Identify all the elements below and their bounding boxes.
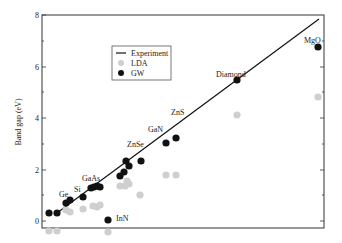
y-tick-6: 6 bbox=[35, 63, 39, 72]
label-znse: ZnSe bbox=[127, 140, 144, 149]
label-ge: Ge bbox=[59, 190, 69, 199]
label-zns: ZnS bbox=[171, 108, 184, 117]
legend-lda: LDA bbox=[131, 59, 148, 68]
y-tick-4: 4 bbox=[35, 114, 39, 123]
material-labels: Ge Si GaAs InN ZnSe GaN ZnS Diamond MgO bbox=[59, 36, 321, 223]
y-tick-2: 2 bbox=[35, 166, 39, 175]
y-tick-labels: 0 2 4 6 8 bbox=[35, 11, 39, 226]
y-tick-8: 8 bbox=[35, 11, 39, 20]
y-axis-label: Band gap (eV) bbox=[14, 98, 23, 145]
legend-gw: GW bbox=[131, 69, 145, 78]
legend: Experiment LDA GW bbox=[112, 46, 171, 80]
label-diamond: Diamond bbox=[216, 70, 246, 79]
legend-gw-marker-icon bbox=[118, 70, 124, 76]
legend-lda-marker-icon bbox=[118, 60, 124, 66]
label-mgo: MgO bbox=[304, 36, 321, 45]
label-si: Si bbox=[74, 185, 81, 194]
gw-series bbox=[45, 43, 321, 223]
legend-experiment: Experiment bbox=[131, 49, 169, 58]
band-gap-chart: 0 2 4 6 8 Band gap (eV) Ge Si GaAs bbox=[0, 0, 342, 243]
y-tick-0: 0 bbox=[35, 217, 39, 226]
label-gaas: GaAs bbox=[82, 174, 100, 183]
label-inn: InN bbox=[116, 214, 129, 223]
label-gan: GaN bbox=[148, 125, 163, 134]
